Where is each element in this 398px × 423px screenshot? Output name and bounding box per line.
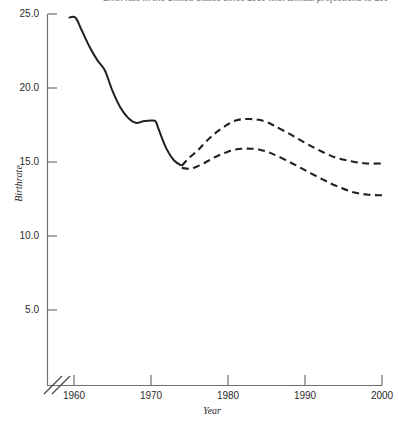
x-tick-label: 2000 xyxy=(359,391,398,401)
y-axis-ticks xyxy=(48,14,58,310)
y-tick-label: 25.0 xyxy=(0,9,39,19)
y-tick-label: 20.0 xyxy=(0,83,39,93)
x-tick-label: 1960 xyxy=(51,391,97,401)
series-line-0 xyxy=(69,17,182,166)
y-tick-label: 10.0 xyxy=(0,231,39,241)
x-tick-label: 1980 xyxy=(205,391,251,401)
data-series-layer xyxy=(69,17,382,196)
y-tick-label: 5.0 xyxy=(0,305,39,315)
x-axis-ticks xyxy=(74,375,382,386)
x-tick-label: 1990 xyxy=(282,391,328,401)
y-axis-title: Birthrate xyxy=(13,149,24,219)
x-axis-title: Year xyxy=(182,405,242,416)
x-tick-label: 1970 xyxy=(128,391,174,401)
series-line-2 xyxy=(182,149,382,196)
